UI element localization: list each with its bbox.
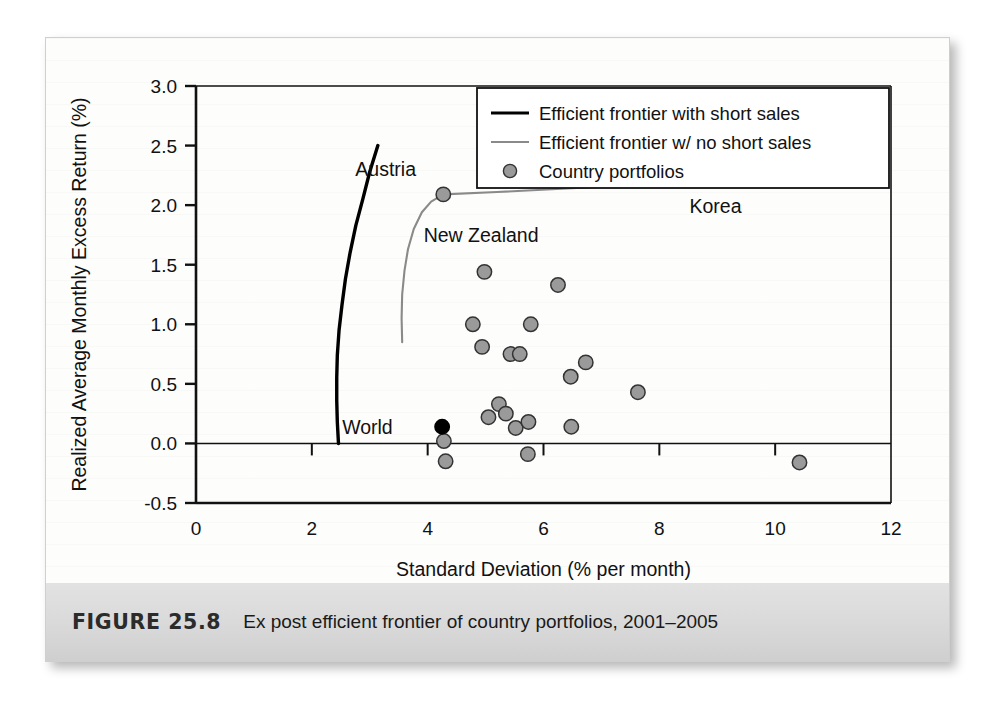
figure-caption-bar: FIGURE 25.8 Ex post efficient frontier o… [46, 583, 949, 661]
data-point [792, 455, 806, 469]
annotation-label: Austria [355, 158, 416, 180]
y-tick-label: 3.0 [151, 76, 177, 97]
y-tick-label: 0.0 [151, 433, 177, 454]
x-tick-label: 8 [654, 518, 665, 539]
data-point [466, 317, 480, 331]
legend-label: Efficient frontier with short sales [539, 103, 800, 124]
data-point [521, 447, 535, 461]
data-point [524, 317, 538, 331]
data-point [564, 420, 578, 434]
data-point [513, 347, 527, 361]
frontier-line [337, 146, 378, 444]
data-point [551, 278, 565, 292]
data-point-markers [435, 172, 807, 470]
frontier-lines [337, 146, 712, 444]
y-axis-tick-labels: -0.50.00.51.01.52.02.53.0 [144, 76, 177, 514]
y-axis-title: Realized Average Monthly Excess Return (… [68, 97, 90, 491]
x-tick-label: 12 [880, 518, 901, 539]
data-point [475, 340, 489, 354]
y-tick-label: 1.5 [151, 255, 177, 276]
y-tick-label: 2.0 [151, 195, 177, 216]
x-tick-label: 6 [538, 518, 549, 539]
x-tick-label: 2 [307, 518, 318, 539]
data-point [499, 406, 513, 420]
data-point [579, 355, 593, 369]
data-point [564, 370, 578, 384]
x-tick-label: 0 [191, 518, 202, 539]
data-point [437, 434, 451, 448]
chart-plot-area: -0.50.00.51.01.52.02.53.0 024681012 Aust… [46, 38, 951, 598]
data-point [631, 385, 645, 399]
data-point [521, 415, 535, 429]
data-point [477, 265, 491, 279]
x-tick-label: 10 [765, 518, 786, 539]
y-tick-label: 1.0 [151, 314, 177, 335]
x-axis-tick-labels: 024681012 [191, 518, 902, 539]
figure-panel: -0.50.00.51.01.52.02.53.0 024681012 Aust… [45, 37, 950, 662]
frontier-line [402, 179, 712, 342]
annotation-label: New Zealand [424, 224, 539, 246]
scatter-chart-svg: -0.50.00.51.01.52.02.53.0 024681012 Aust… [46, 38, 951, 598]
legend-marker-swatch [503, 164, 516, 177]
legend-label: Efficient frontier w/ no short sales [539, 132, 811, 153]
data-point [481, 410, 495, 424]
y-tick-label: -0.5 [144, 493, 177, 514]
legend-label: Country portfolios [539, 161, 684, 182]
data-point [435, 420, 449, 434]
figure-caption-text: Ex post efficient frontier of country po… [243, 611, 718, 633]
figure-number-label: FIGURE 25.8 [72, 610, 221, 634]
x-axis-ticks [312, 443, 775, 455]
x-axis-title: Standard Deviation (% per month) [396, 558, 691, 580]
annotation-label: Korea [689, 195, 741, 217]
x-tick-label: 4 [422, 518, 433, 539]
annotation-label: World [342, 416, 393, 438]
chart-legend: Efficient frontier with short salesEffic… [477, 88, 889, 188]
y-axis-ticks [185, 86, 196, 503]
data-point [438, 454, 452, 468]
data-point [436, 187, 450, 201]
y-tick-label: 0.5 [151, 374, 177, 395]
y-tick-label: 2.5 [151, 136, 177, 157]
